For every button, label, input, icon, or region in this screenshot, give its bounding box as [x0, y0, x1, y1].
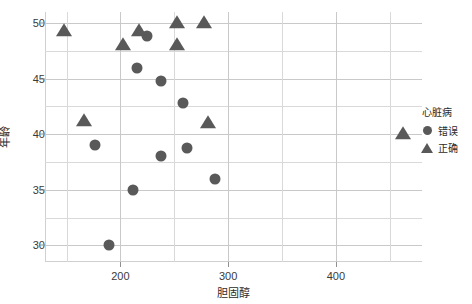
x-axis-title: 胆固醇 — [217, 284, 250, 300]
gridline — [228, 12, 229, 262]
data-point-circle[interactable] — [156, 75, 167, 86]
gridline — [45, 218, 422, 219]
plot-area — [45, 12, 422, 262]
data-point-triangle[interactable] — [131, 23, 147, 36]
plot-frame — [45, 12, 422, 262]
gridline — [45, 134, 422, 135]
data-point-circle[interactable] — [131, 62, 142, 73]
data-point-circle[interactable] — [177, 98, 188, 109]
legend: 心脏病 错误 正确 — [420, 104, 472, 157]
gridline — [45, 51, 422, 52]
legend-item-triangle[interactable]: 正确 — [420, 140, 472, 155]
legend-triangle-icon — [420, 141, 434, 154]
gridline — [45, 23, 422, 24]
legend-label-circle: 错误 — [438, 123, 458, 138]
y-axis-tick-mark — [40, 189, 45, 190]
data-point-circle[interactable] — [89, 140, 100, 151]
gridline — [45, 245, 422, 246]
gridline — [67, 12, 68, 262]
y-axis-title: 年龄 — [0, 117, 12, 157]
data-point-circle[interactable] — [156, 151, 167, 162]
gridline — [45, 106, 422, 107]
x-axis-tick-mark — [336, 262, 337, 267]
legend-item-circle[interactable]: 错误 — [420, 123, 472, 138]
data-point-circle[interactable] — [128, 184, 139, 195]
y-axis-tick-mark — [40, 134, 45, 135]
data-point-triangle[interactable] — [169, 15, 185, 28]
gridline — [336, 12, 337, 262]
data-point-triangle[interactable] — [56, 23, 72, 36]
gridline — [45, 190, 422, 191]
data-point-circle[interactable] — [210, 173, 221, 184]
data-point-circle[interactable] — [103, 240, 114, 251]
y-axis-tick-mark — [40, 245, 45, 246]
legend-title: 心脏病 — [422, 104, 472, 119]
gridline — [390, 12, 391, 262]
y-axis-tick-mark — [40, 78, 45, 79]
scatter-chart-root: 3035404550200300400 年龄 胆固醇 心脏病 错误 正确 — [0, 0, 472, 304]
legend-circle-icon — [420, 124, 434, 137]
gridline — [45, 162, 422, 163]
x-axis-tick-label: 200 — [100, 270, 140, 282]
x-axis-tick-label: 400 — [316, 270, 356, 282]
data-point-triangle[interactable] — [196, 15, 212, 28]
data-point-triangle[interactable] — [115, 38, 131, 51]
y-axis-tick-mark — [40, 23, 45, 24]
x-axis-tick-mark — [120, 262, 121, 267]
data-point-triangle[interactable] — [200, 115, 216, 128]
legend-label-triangle: 正确 — [438, 140, 458, 155]
data-point-circle[interactable] — [182, 142, 193, 153]
data-point-triangle[interactable] — [169, 38, 185, 51]
data-point-triangle[interactable] — [76, 113, 92, 126]
gridline — [282, 12, 283, 262]
gridline — [45, 79, 422, 80]
x-axis-tick-mark — [228, 262, 229, 267]
data-point-triangle[interactable] — [395, 126, 411, 139]
x-axis-tick-label: 300 — [208, 270, 248, 282]
